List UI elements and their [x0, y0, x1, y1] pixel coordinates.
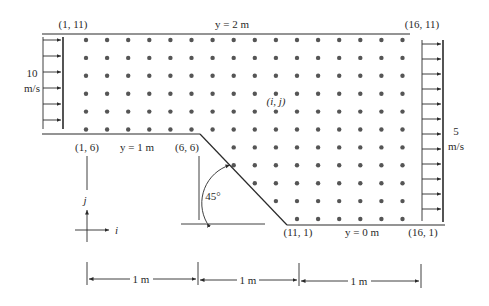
grid-node: [379, 199, 383, 203]
grid-node: [337, 217, 341, 221]
grid-node: [232, 92, 236, 96]
grid-node: [400, 74, 404, 78]
grid-node: [379, 181, 383, 185]
grid-node: [400, 56, 404, 60]
grid-node: [358, 163, 362, 167]
outlet-velocity-profile: [422, 40, 443, 222]
grid-node: [295, 56, 299, 60]
grid-node: [168, 127, 172, 131]
grid-node: [400, 163, 404, 167]
grid-node: [147, 74, 151, 78]
grid-node: [316, 109, 320, 113]
grid-node: [316, 217, 320, 221]
grid-node: [358, 217, 362, 221]
grid-node: [316, 145, 320, 149]
grid-node: [168, 56, 172, 60]
inlet-unit: m/s: [24, 82, 40, 94]
grid-node: [295, 127, 299, 131]
grid-node: [316, 163, 320, 167]
grid-node: [126, 127, 130, 131]
label-step-left: (1, 6): [75, 141, 99, 154]
grid-node: [379, 56, 383, 60]
grid-node: [253, 74, 257, 78]
label-top-right: (16, 11): [405, 18, 440, 31]
grid-node: [84, 38, 88, 42]
grid-node: [379, 92, 383, 96]
grid-node: [400, 217, 404, 221]
grid-node: [358, 109, 362, 113]
label-top-wall: y = 2 m: [215, 18, 249, 30]
grid-node: [253, 92, 257, 96]
grid-node: [400, 109, 404, 113]
grid-node: [337, 199, 341, 203]
grid-node: [210, 74, 214, 78]
grid-node: [147, 127, 151, 131]
grid-node: [189, 74, 193, 78]
grid-node: [295, 181, 299, 185]
grid-nodes: [84, 38, 405, 221]
grid-node: [84, 109, 88, 113]
grid-node: [168, 38, 172, 42]
grid-node: [105, 38, 109, 42]
grid-node: [274, 74, 278, 78]
grid-node: [337, 181, 341, 185]
grid-node: [358, 38, 362, 42]
grid-node: [168, 109, 172, 113]
label-bottom-wall: y = 0 m: [345, 226, 379, 238]
grid-node: [337, 38, 341, 42]
grid-node: [316, 181, 320, 185]
grid-node: [210, 109, 214, 113]
grid-node: [295, 74, 299, 78]
grid-node: [147, 38, 151, 42]
grid-node: [295, 109, 299, 113]
grid-node: [253, 109, 257, 113]
grid-node: [210, 127, 214, 131]
angle-label: 45°: [205, 190, 220, 202]
grid-node: [274, 145, 278, 149]
grid-node: [253, 56, 257, 60]
grid-node: [295, 38, 299, 42]
grid-node: [295, 92, 299, 96]
grid-node: [189, 38, 193, 42]
grid-node: [147, 92, 151, 96]
grid-node: [189, 56, 193, 60]
grid-node: [232, 127, 236, 131]
grid-node: [400, 145, 404, 149]
grid-node: [337, 56, 341, 60]
grid-node: [316, 74, 320, 78]
grid-node: [358, 74, 362, 78]
grid-node: [105, 92, 109, 96]
grid-node: [274, 38, 278, 42]
label-bottom-left: (11, 1): [284, 226, 313, 239]
grid-node: [379, 38, 383, 42]
label-node-ij: (i, j): [267, 95, 286, 108]
grid-node: [274, 127, 278, 131]
grid-node: [105, 74, 109, 78]
grid-node: [358, 92, 362, 96]
grid-node: [232, 74, 236, 78]
inlet-velocity-profile: [43, 37, 63, 129]
grid-node: [379, 109, 383, 113]
grid-node: [400, 181, 404, 185]
grid-node: [232, 38, 236, 42]
inlet-value: 10: [27, 67, 39, 79]
grid-node: [84, 56, 88, 60]
grid-node: [274, 181, 278, 185]
grid-node: [253, 127, 257, 131]
grid-node: [232, 56, 236, 60]
grid-node: [316, 92, 320, 96]
grid-node: [147, 56, 151, 60]
grid-node: [316, 199, 320, 203]
grid-node: [189, 92, 193, 96]
grid-node: [168, 92, 172, 96]
grid-node: [400, 38, 404, 42]
grid-diagram: 10 m/s 5 m/s (1, 11) y = 2 m (16, 11) (1…: [0, 0, 489, 306]
axis-i-label: i: [115, 224, 118, 236]
grid-node: [358, 199, 362, 203]
grid-node: [358, 145, 362, 149]
grid-node: [379, 74, 383, 78]
grid-node: [295, 199, 299, 203]
grid-node: [253, 145, 257, 149]
dimension-3: 1 m: [351, 275, 368, 287]
grid-node: [379, 145, 383, 149]
